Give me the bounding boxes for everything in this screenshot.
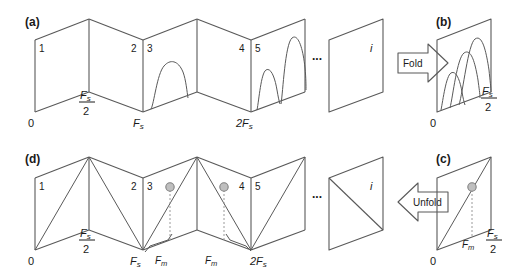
d-marker-2	[220, 183, 228, 191]
panel-d-zone-label-4: 4	[239, 181, 245, 192]
c-fs-den: 2	[490, 243, 496, 255]
panel-d-zone-label-3: 3	[147, 181, 153, 192]
panel-d-zone-label-5: 5	[255, 181, 261, 192]
d-fs-den: 2	[83, 243, 89, 255]
axis-fs-half-den: 2	[83, 105, 89, 117]
panel-d-zone-label-2: 2	[131, 181, 137, 192]
panel-c-marker	[468, 183, 476, 191]
panel-a-zone-label-3: 3	[147, 43, 153, 54]
panel-d-zone-label-1: 1	[39, 181, 45, 192]
d-marker-1	[166, 183, 174, 191]
panel-a-ellipsis: ...	[312, 49, 322, 63]
panel-c-axis-0: 0	[430, 255, 436, 267]
panel-a-zone-label-4: 4	[239, 43, 245, 54]
panel-a-tag: (a)	[25, 15, 40, 29]
panel-a-axis-0: 0	[28, 117, 34, 129]
panel-d-tag: (d)	[25, 152, 40, 166]
panel-c-tag: (c)	[436, 152, 451, 166]
panel-b-tag: (b)	[436, 15, 451, 29]
panel-b-fs-den: 2	[485, 101, 491, 113]
unfold-arrow-label: Unfold	[413, 197, 442, 208]
fold-arrow-label: Fold	[403, 58, 422, 69]
panel-d-axis-0: 0	[28, 255, 34, 267]
panel-a-zone-label-1: 1	[39, 43, 45, 54]
panel-a-zone-label-2: 2	[131, 43, 137, 54]
panel-b-axis-0: 0	[430, 117, 436, 129]
figure-root: (a) ... i	[0, 0, 519, 275]
panel-d-ellipsis: ...	[312, 187, 322, 201]
panel-a-zone-label-5: 5	[255, 43, 261, 54]
figure-svg: (a) ... i	[0, 0, 519, 275]
